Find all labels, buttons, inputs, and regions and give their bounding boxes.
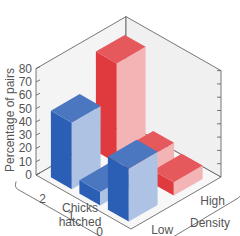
y-tick-label: 10 <box>19 155 33 169</box>
x-axis-title-line1: Chicks <box>62 201 98 215</box>
chart: 01020304050607080 210ChickshatchedLowHig… <box>0 0 240 236</box>
y-tick-label: 30 <box>19 128 33 142</box>
z-tick-label-high: High <box>200 194 225 208</box>
x-axis-title-line2: hatched <box>59 215 102 229</box>
y-tick-label: 0 <box>25 168 32 182</box>
x-tick-label: 2 <box>39 192 46 206</box>
z-tick-label-low: Low <box>151 223 173 236</box>
y-tick-label: 50 <box>19 102 33 116</box>
bar-side-face <box>51 111 72 189</box>
y-tick-label: 60 <box>19 88 33 102</box>
y-tick-label: 40 <box>19 115 33 129</box>
y-tick-label: 20 <box>19 141 33 155</box>
y-tick-label: 70 <box>19 75 33 89</box>
y-axis-title: Percentage of pairs <box>3 68 17 172</box>
z-axis-title: Density <box>190 216 230 230</box>
y-tick-label: 80 <box>19 62 33 76</box>
